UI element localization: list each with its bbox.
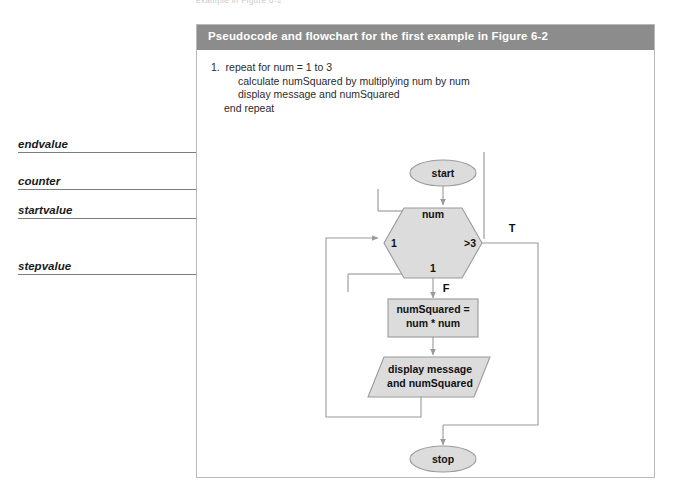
output-line-2: and numSquared <box>387 377 473 389</box>
output-line-1: display message <box>388 363 472 375</box>
stop-label: stop <box>432 453 454 465</box>
loop-stepvalue-label: 1 <box>430 262 436 274</box>
loop-counter-label: num <box>422 208 444 220</box>
flowchart-svg: start num 1 >3 1 T F numSquared = num * … <box>0 0 674 489</box>
branch-false-label: F <box>443 282 450 294</box>
start-label: start <box>432 167 455 179</box>
loop-endvalue-label: >3 <box>464 237 476 249</box>
figure-stage: example in Figure 6-2 endvalue counter s… <box>0 0 674 489</box>
loop-startvalue-label: 1 <box>391 237 397 249</box>
branch-true-label: T <box>509 222 516 234</box>
process-line-1: numSquared = <box>396 303 469 315</box>
process-line-2: num * num <box>406 317 460 329</box>
